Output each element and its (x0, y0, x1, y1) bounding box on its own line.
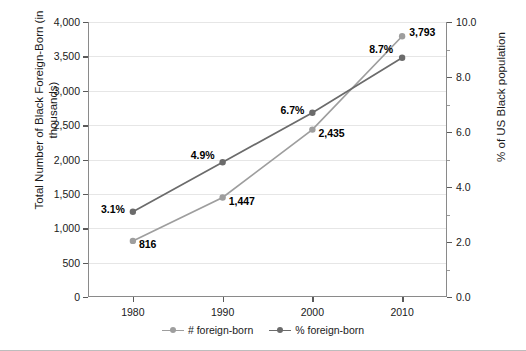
series-layer (88, 22, 447, 297)
axis-tick (447, 242, 452, 243)
left-axis-ticklabel: 0 (34, 291, 80, 303)
plot-area: 8161,4472,4353,7933.1%4.9%6.7%8.7% (88, 22, 447, 297)
axis-tick (223, 297, 224, 302)
axis-tick (447, 187, 452, 188)
axis-tick-minor (447, 50, 450, 51)
data-point-label: 1,447 (229, 195, 255, 207)
data-point-label: 816 (139, 238, 157, 250)
legend-marker-icon (269, 326, 291, 335)
x-axis-ticklabel: 2010 (390, 306, 413, 318)
axis-tick (447, 77, 452, 78)
legend-marker-icon (162, 326, 184, 335)
right-axis-title: % of US Black population (494, 0, 508, 212)
axis-tick (447, 132, 452, 133)
x-axis-ticklabel: 1980 (121, 306, 144, 318)
left-axis-ticklabel: 2,500 (34, 119, 80, 131)
chart-legend: # foreign-born% foreign-born (0, 324, 526, 336)
data-point (309, 110, 315, 116)
series-line (133, 36, 402, 241)
legend-label: # foreign-born (188, 324, 253, 336)
series-line (133, 58, 402, 212)
axis-tick-minor (447, 160, 450, 161)
data-point-label: 6.7% (280, 104, 304, 116)
data-point-label: 8.7% (369, 43, 393, 55)
legend-label: % foreign-born (295, 324, 364, 336)
left-axis-ticklabel: 4,000 (34, 16, 80, 28)
axis-tick (447, 297, 452, 298)
left-axis-ticklabel: 3,500 (34, 50, 80, 62)
data-point-label: 3.1% (101, 203, 125, 215)
axis-tick-minor (447, 105, 450, 106)
right-axis-ticklabel: 2.0 (456, 236, 471, 248)
left-axis-ticklabel: 1,500 (34, 188, 80, 200)
data-point-label: 4.9% (191, 149, 215, 161)
right-axis-ticklabel: 8.0 (456, 71, 471, 83)
axis-tick (402, 297, 403, 302)
data-point (309, 126, 315, 132)
axis-tick (312, 297, 313, 302)
data-point (130, 238, 136, 244)
chart-figure: Total Number of Black Foreign-Born (in t… (0, 0, 526, 351)
axis-tick-minor (447, 270, 450, 271)
data-point-label: 3,793 (409, 26, 435, 38)
axis-tick (133, 297, 134, 302)
legend-item[interactable]: % foreign-born (269, 324, 364, 336)
right-axis-ticklabel: 4.0 (456, 181, 471, 193)
data-point (219, 159, 225, 165)
data-point-label: 2,435 (318, 127, 344, 139)
x-axis-ticklabel: 1990 (211, 306, 234, 318)
axis-tick-minor (447, 215, 450, 216)
right-axis-ticklabel: 0.0 (456, 291, 471, 303)
data-point (399, 33, 405, 39)
x-axis-ticklabel: 2000 (301, 306, 324, 318)
data-point (130, 209, 136, 215)
data-point (219, 194, 225, 200)
left-axis-ticklabel: 1,000 (34, 222, 80, 234)
legend-item[interactable]: # foreign-born (162, 324, 253, 336)
right-axis-ticklabel: 10.0 (456, 16, 476, 28)
axis-tick (447, 22, 452, 23)
left-axis-ticklabel: 2,000 (34, 154, 80, 166)
right-axis-ticklabel: 6.0 (456, 126, 471, 138)
axis-tick (83, 297, 88, 298)
left-axis-ticklabel: 500 (34, 257, 80, 269)
data-point (399, 55, 405, 61)
left-axis-ticklabel: 3,000 (34, 85, 80, 97)
